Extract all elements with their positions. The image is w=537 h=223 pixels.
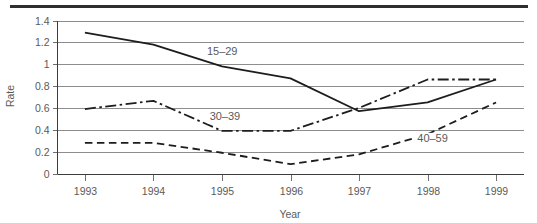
x-tick-label: 1997 xyxy=(348,185,372,197)
gridline-group xyxy=(58,22,524,153)
series-label-40-59: 40–59 xyxy=(417,132,448,144)
y-tick-label-group: 00.20.40.60.811.21.4 xyxy=(35,15,50,180)
y-tick-label: 1 xyxy=(44,58,50,70)
series-line-15-29 xyxy=(85,33,496,112)
series-label-15-29: 15–29 xyxy=(207,45,238,57)
y-tick-label: 0.6 xyxy=(35,102,50,114)
x-tick-mark-group xyxy=(86,175,497,181)
y-tick-label: 0.2 xyxy=(35,146,50,158)
y-tick-label: 0 xyxy=(44,168,50,180)
x-tick-label: 1999 xyxy=(485,185,509,197)
x-tick-label: 1994 xyxy=(142,185,166,197)
chart-figure: 00.20.40.60.811.21.4 1993199419951996199… xyxy=(0,0,537,223)
series-label-30-39: 30–39 xyxy=(210,110,241,122)
y-tick-label: 1.2 xyxy=(35,36,50,48)
x-tick-label: 1995 xyxy=(211,185,235,197)
x-tick-label-group: 1993199419951996199719981999 xyxy=(74,185,509,197)
y-tick-label: 1.4 xyxy=(35,15,50,27)
x-tick-label: 1996 xyxy=(280,185,304,197)
line-chart: 00.20.40.60.811.21.4 1993199419951996199… xyxy=(0,0,537,223)
y-tick-label: 0.4 xyxy=(35,124,50,136)
x-tick-label: 1993 xyxy=(74,185,98,197)
x-axis-title: Year xyxy=(279,208,301,220)
y-tick-label: 0.8 xyxy=(35,80,50,92)
x-tick-label: 1998 xyxy=(417,185,441,197)
y-axis-title: Rate xyxy=(4,85,16,107)
series-line-30-39 xyxy=(85,80,496,131)
